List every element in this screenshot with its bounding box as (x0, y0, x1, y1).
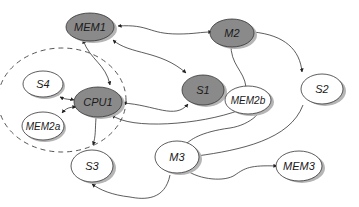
edge-cpu1-s3 (93, 118, 96, 145)
network-diagram: MEM1 M2 S4 CPU1 S1 MEM2b S2 MEM2a S3 (0, 0, 359, 207)
node-label: S1 (196, 84, 209, 96)
edge-s1-cpu1 (123, 103, 188, 111)
node-label: MEM2b (231, 95, 266, 106)
edge-mem1-cpu1 (83, 40, 110, 85)
node-label: S3 (85, 160, 99, 172)
edge-cpu1-mem2b (112, 110, 240, 124)
node-label: MEM3 (283, 160, 316, 172)
node-m2[interactable]: M2 (210, 19, 257, 49)
edge-mem1-s1 (113, 40, 186, 73)
edge-mem2a-cpu1 (62, 107, 76, 113)
node-s3[interactable]: S3 (71, 150, 116, 184)
node-label: M2 (224, 27, 239, 39)
edge-m3-mem3 (186, 166, 277, 179)
edge-mem1-m2 (118, 26, 212, 34)
node-s4[interactable]: S4 (23, 71, 65, 99)
node-mem2a[interactable]: MEM2a (22, 112, 66, 142)
node-s1[interactable]: S1 (182, 75, 227, 107)
edge-mem2b-m2 (231, 43, 246, 87)
node-mem1[interactable]: MEM1 (66, 13, 117, 43)
node-cpu1[interactable]: CPU1 (74, 87, 125, 119)
node-mem3[interactable]: MEM3 (276, 151, 325, 183)
node-m3[interactable]: M3 (155, 141, 202, 175)
node-mem2b[interactable]: MEM2b (225, 86, 274, 116)
node-label: MEM2a (26, 121, 61, 132)
edge-m2-s2 (253, 32, 302, 72)
node-label: S4 (36, 78, 49, 90)
edge-s4-cpu1 (60, 97, 74, 100)
node-label: M3 (169, 151, 185, 163)
node-label: S2 (315, 83, 328, 95)
node-s2[interactable]: S2 (301, 74, 346, 106)
node-label: MEM1 (74, 21, 106, 33)
node-label: CPU1 (83, 96, 112, 108)
